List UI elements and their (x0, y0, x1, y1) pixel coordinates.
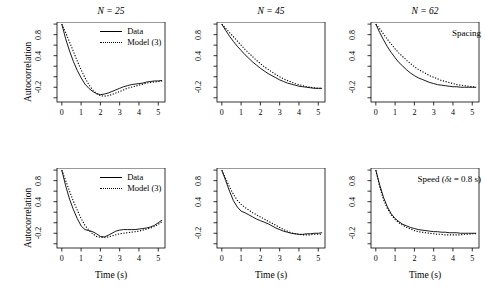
legend-label: Data (127, 26, 143, 36)
series-line-model-3 (222, 170, 322, 235)
panel-title-top-left: N = 25 (57, 6, 165, 16)
series-line-model-3 (62, 170, 162, 237)
legend-key-data (100, 31, 122, 32)
panel-top-right: N = 620.80.4-0.2012345Spacing (331, 6, 486, 136)
series-line-data (222, 170, 322, 234)
x-tick-label: 3 (424, 254, 444, 263)
x-tick-label: 0 (212, 108, 232, 117)
x-tick-label: 1 (71, 254, 91, 263)
y-tick-label: -0.2 (348, 81, 357, 94)
x-tick-label: 2 (250, 108, 270, 117)
series-line-data (222, 24, 322, 88)
plot-area-top-middle (211, 22, 343, 116)
y-tick-label: 0.8 (34, 30, 43, 40)
legend-label: Data (127, 172, 143, 182)
x-tick-label: 4 (443, 108, 463, 117)
x-tick-label: 1 (385, 254, 405, 263)
panel-top-left: N = 250.80.4-0.2012345DataModel (3)Autoc… (17, 6, 175, 136)
y-axis-title: Autocorrelation (23, 42, 33, 102)
x-tick-label: 2 (90, 108, 110, 117)
y-tick-label: 0.4 (348, 51, 357, 61)
x-tick-label: 1 (231, 254, 251, 263)
x-tick-label: 0 (366, 254, 386, 263)
y-tick-label: 0.8 (34, 176, 43, 186)
legend-label: Model (3) (127, 183, 161, 193)
x-tick-label: 0 (52, 254, 72, 263)
panel-bottom-middle: 0.80.4-0.2012345Time (s) (177, 152, 335, 282)
panel-bottom-left: 0.80.4-0.2012345DataModel (3)Autocorrela… (17, 152, 175, 282)
legend-label: Model (3) (127, 37, 161, 47)
legend-key-model (100, 188, 122, 189)
panel-annotation-top-right: Spacing (452, 28, 481, 38)
x-tick-label: 4 (129, 108, 149, 117)
x-tick-label: 1 (231, 108, 251, 117)
plot-frame (217, 168, 325, 248)
series-line-data (62, 170, 162, 237)
x-tick-label: 4 (289, 108, 309, 117)
series-line-model-3 (62, 24, 162, 96)
x-axis-title: Time (s) (365, 270, 485, 280)
panel-bottom-right: 0.80.4-0.2012345Speed (δt = 0.8 s)Time (… (331, 152, 486, 282)
x-tick-label: 1 (71, 108, 91, 117)
plot-area-bottom-middle (211, 168, 343, 262)
x-tick-label: 5 (462, 108, 482, 117)
x-tick-label: 4 (443, 254, 463, 263)
x-tick-label: 5 (148, 108, 168, 117)
x-tick-label: 3 (270, 108, 290, 117)
y-axis-title: Autocorrelation (23, 188, 33, 248)
x-tick-label: 0 (52, 108, 72, 117)
plot-area-bottom-left (51, 168, 183, 262)
y-tick-label: 0.4 (194, 197, 203, 207)
y-tick-label: 0.8 (194, 176, 203, 186)
y-tick-label: -0.2 (348, 227, 357, 240)
y-tick-label: 0.8 (348, 30, 357, 40)
panel-top-middle: N = 450.80.4-0.2012345 (177, 6, 335, 136)
x-tick-label: 4 (129, 254, 149, 263)
y-tick-label: -0.2 (34, 227, 43, 240)
x-tick-label: 1 (385, 108, 405, 117)
series-line-data (62, 24, 162, 95)
x-axis-title: Time (s) (51, 270, 171, 280)
y-tick-label: 0.4 (194, 51, 203, 61)
x-tick-label: 2 (404, 254, 424, 263)
y-tick-label: 0.4 (348, 197, 357, 207)
x-tick-label: 2 (404, 108, 424, 117)
series-line-model-3 (222, 24, 322, 88)
y-tick-label: -0.2 (194, 81, 203, 94)
y-tick-label: 0.8 (348, 176, 357, 186)
delta-t-symbol: δt (445, 174, 452, 184)
y-tick-label: 0.4 (34, 197, 43, 207)
x-tick-label: 3 (110, 108, 130, 117)
panel-title-top-right: N = 62 (371, 6, 479, 16)
x-tick-label: 5 (308, 108, 328, 117)
autocorrelation-figure: N = 250.80.4-0.2012345DataModel (3)Autoc… (0, 0, 486, 294)
x-tick-label: 3 (270, 254, 290, 263)
x-tick-label: 5 (308, 254, 328, 263)
y-tick-label: 0.8 (194, 30, 203, 40)
y-tick-label: 0.4 (34, 51, 43, 61)
plot-frame (217, 22, 325, 102)
x-tick-label: 5 (148, 254, 168, 263)
legend-key-data (100, 177, 122, 178)
x-axis-title: Time (s) (211, 270, 331, 280)
x-tick-label: 0 (212, 254, 232, 263)
plot-area-top-left (51, 22, 183, 116)
x-tick-label: 3 (424, 108, 444, 117)
x-tick-label: 2 (90, 254, 110, 263)
x-tick-label: 0 (366, 108, 386, 117)
x-tick-label: 3 (110, 254, 130, 263)
legend-key-model (100, 42, 122, 43)
x-tick-label: 4 (289, 254, 309, 263)
x-tick-label: 5 (462, 254, 482, 263)
y-tick-label: -0.2 (194, 227, 203, 240)
panel-annotation-bottom-right: Speed (δt = 0.8 s) (417, 174, 481, 184)
x-tick-label: 2 (250, 254, 270, 263)
y-tick-label: -0.2 (34, 81, 43, 94)
panel-title-top-middle: N = 45 (217, 6, 325, 16)
